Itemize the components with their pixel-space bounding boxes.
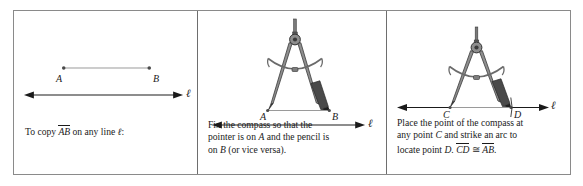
compass-pencil-barrel <box>311 81 328 110</box>
caption-middle: on any line <box>70 126 117 137</box>
line-l-arrow-left <box>24 92 34 99</box>
point-a-dot <box>266 109 269 112</box>
panel-1-caption: To copy AB on any line ℓ: <box>14 124 197 148</box>
caption-line-2a: any point <box>397 129 435 140</box>
compass-handle <box>475 27 478 41</box>
line-label-ell: ℓ <box>551 100 556 110</box>
caption-line-2b: and the pencil is <box>264 131 329 142</box>
point-b-dot <box>147 66 151 70</box>
caption-overline-ab: AB <box>58 125 70 137</box>
panel-1-diagram <box>14 11 197 129</box>
caption-line-3a: on <box>208 144 220 155</box>
panel-2-caption: Fix the compass so that the pointer is o… <box>198 119 386 166</box>
panel-copy-segment-step3: C D ℓ Place the point of the compass at … <box>387 11 570 174</box>
point-label-a: A <box>56 74 62 84</box>
line-l-arrow-right <box>173 92 183 99</box>
compass-hinge-pin <box>474 45 478 49</box>
compass-handle <box>294 19 297 33</box>
compass-hinge-pin <box>293 37 297 41</box>
line-l-arrow-left <box>397 104 407 111</box>
caption-congruent-symbol: ≅ <box>469 144 482 155</box>
caption-line-1: Place the point of the compass at <box>397 117 561 129</box>
compass-left-leg <box>271 43 292 105</box>
line-l-arrow-right <box>539 104 549 111</box>
point-a-dot <box>62 66 66 70</box>
panel-3-caption: Place the point of the compass at any po… <box>387 117 570 166</box>
construction-figure: A B ℓ To copy AB on any line ℓ: <box>13 10 571 175</box>
caption-line-2b: and strike an arc to <box>442 129 517 140</box>
compass-arc-clamp <box>292 68 298 72</box>
panel-2-diagram <box>198 11 386 129</box>
panel-2-svg <box>198 11 386 129</box>
point-b-dot <box>328 109 331 112</box>
caption-overline-ab: AB <box>482 143 494 155</box>
panel-copy-segment-step1: A B ℓ To copy AB on any line ℓ: <box>14 11 198 174</box>
caption-line-2a: pointer is on <box>208 131 258 142</box>
caption-line-3-end: . <box>494 144 496 155</box>
compass-needle-tip <box>268 104 273 111</box>
caption-line-3a: locate point <box>397 144 444 155</box>
compass-arc-clamp <box>474 76 480 80</box>
compass-graphic <box>268 19 330 111</box>
panel-3-diagram <box>387 11 570 129</box>
caption-line-1: Fix the compass so that the <box>208 119 377 131</box>
caption-suffix: : <box>122 126 125 137</box>
line-label-ell: ℓ <box>186 88 191 98</box>
panel-1-svg <box>14 11 197 129</box>
caption-line-3b: (or vice versa). <box>226 144 286 155</box>
point-label-b: B <box>153 74 159 84</box>
panel-3-svg <box>387 11 570 129</box>
caption-prefix: To copy <box>25 126 58 137</box>
panel-copy-segment-step2: A B ℓ Fix the compass so that the pointe… <box>198 11 387 174</box>
compass-graphic <box>449 27 511 108</box>
caption-overline-cd: CD <box>456 143 469 155</box>
